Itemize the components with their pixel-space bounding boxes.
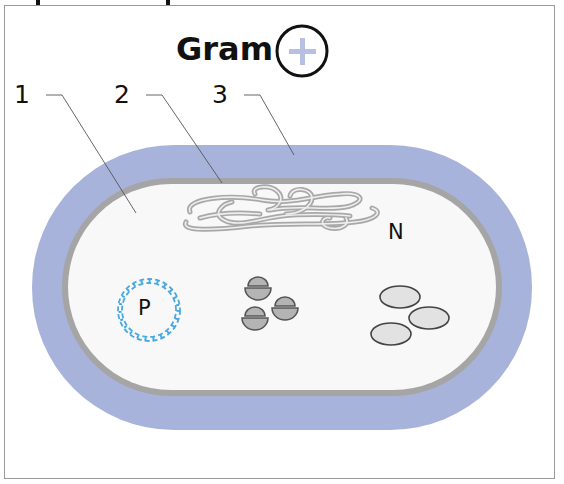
inclusion-body bbox=[380, 286, 420, 308]
nucleoid-label: N bbox=[388, 220, 404, 244]
callout-label-3: 3 bbox=[212, 80, 228, 109]
plus-in-circle-icon bbox=[277, 26, 327, 76]
gram-positive-cell-diagram bbox=[0, 0, 564, 484]
callout-label-1: 1 bbox=[14, 80, 30, 109]
inclusion-body bbox=[371, 323, 411, 345]
inclusion-body bbox=[409, 307, 449, 329]
diagram-title: Gram bbox=[176, 30, 273, 68]
plasmid-label: P bbox=[138, 296, 151, 320]
callout-label-2: 2 bbox=[114, 80, 130, 109]
